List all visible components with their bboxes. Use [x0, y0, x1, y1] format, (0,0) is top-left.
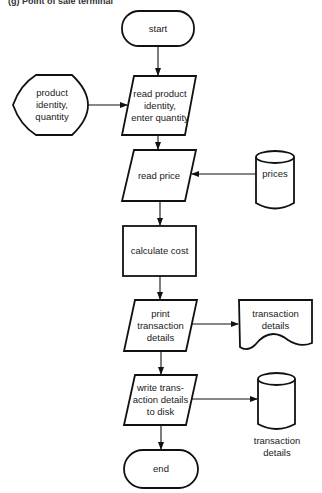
prices-label: prices	[256, 160, 294, 188]
end-label: end	[124, 450, 198, 488]
start-label: start	[122, 11, 194, 46]
read-product-label: read product identity, enter quantity	[124, 76, 196, 135]
transaction-disk-label: transaction details	[248, 434, 306, 460]
transaction-disk-cylinder-shape	[258, 379, 295, 429]
product-input-label: product identity, quantity	[18, 75, 86, 135]
read-price-label: read price	[122, 150, 196, 201]
calculate-cost-label: calculate cost	[123, 226, 196, 276]
print-details-label: print transaction details	[124, 300, 197, 351]
transaction-disk-cylinder-top	[258, 373, 295, 385]
write-disk-label: write trans- action details to disk	[124, 375, 197, 425]
transaction-document-label: transaction details	[239, 302, 312, 338]
